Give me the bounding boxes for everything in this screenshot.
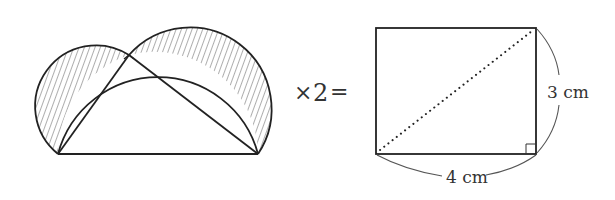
multiply-symbol: × <box>294 80 312 105</box>
diagram-canvas: × 2 = 3 cm 4 cm <box>0 0 615 200</box>
equals-symbol: = <box>330 79 348 104</box>
left-lune-shading <box>35 45 129 154</box>
width-label: 4 cm <box>446 167 488 187</box>
circumcircle-arc <box>58 77 258 154</box>
height-brace-bottom <box>537 105 559 153</box>
lunes-figure <box>35 27 271 154</box>
width-brace-right <box>486 155 536 175</box>
height-label: 3 cm <box>547 82 589 102</box>
rectangle-figure: 3 cm 4 cm <box>376 28 589 187</box>
operator: × 2 = <box>294 79 348 107</box>
right-angle-marker <box>526 144 536 154</box>
dotted-diagonal <box>380 31 532 150</box>
factor-value: 2 <box>313 79 328 107</box>
height-brace-top <box>537 29 559 75</box>
width-brace-left <box>377 155 442 176</box>
